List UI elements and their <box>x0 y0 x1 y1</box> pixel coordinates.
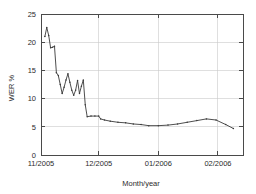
data-point <box>65 79 67 81</box>
x-tick-label: 01/2006 <box>145 159 172 168</box>
y-tick-label: 5 <box>32 123 36 132</box>
data-point <box>86 116 88 118</box>
data-point <box>44 36 46 38</box>
data-point <box>52 47 54 49</box>
data-point <box>158 125 160 127</box>
x-tick-label: 12/2005 <box>85 159 112 168</box>
x-axis-title: Month/year <box>122 179 160 188</box>
data-point <box>110 120 112 122</box>
data-point <box>85 104 87 106</box>
data-point <box>46 27 48 29</box>
data-point <box>94 115 96 117</box>
data-point <box>50 47 52 49</box>
data-point <box>79 93 81 95</box>
data-point <box>56 72 58 74</box>
y-axis-title: WER % <box>7 75 16 102</box>
wer-line-chart: 0510152025 11/200512/200501/200602/2006 … <box>0 0 256 194</box>
y-axis-tick-labels: 0510152025 <box>28 10 36 160</box>
data-point <box>133 123 135 125</box>
data-point <box>48 35 50 37</box>
data-point <box>225 124 227 126</box>
y-tick-label: 20 <box>28 38 36 47</box>
data-point <box>104 119 106 121</box>
data-point <box>69 81 71 83</box>
data-point <box>140 124 142 126</box>
data-point <box>186 122 188 124</box>
data-point <box>125 122 127 124</box>
data-point <box>206 118 208 120</box>
data-point <box>100 118 102 120</box>
data-point <box>77 80 79 82</box>
chart-container: 0510152025 11/200512/200501/200602/2006 … <box>0 0 256 194</box>
data-point <box>177 123 179 125</box>
data-point <box>233 128 235 130</box>
data-point <box>73 94 75 96</box>
data-point <box>54 45 56 47</box>
data-point <box>167 124 169 126</box>
data-point <box>61 93 63 95</box>
x-tick-label: 02/2006 <box>204 159 231 168</box>
data-point <box>148 125 150 127</box>
data-point <box>67 73 69 75</box>
data-point <box>71 89 73 91</box>
y-tick-label: 25 <box>28 10 36 19</box>
data-point <box>59 84 61 86</box>
data-point <box>63 87 65 89</box>
x-axis-tick-labels: 11/200512/200501/200602/2006 <box>28 159 232 168</box>
x-tick-label: 11/2005 <box>28 159 55 168</box>
data-point <box>81 85 83 87</box>
data-point <box>90 115 92 117</box>
y-tick-label: 10 <box>28 94 36 103</box>
data-point <box>196 120 198 122</box>
data-point <box>83 79 85 81</box>
data-point <box>117 122 119 124</box>
data-point <box>98 115 100 117</box>
data-point <box>58 75 60 77</box>
data-point <box>215 119 217 121</box>
plot-background <box>41 14 243 155</box>
y-tick-label: 15 <box>28 66 36 75</box>
data-point <box>75 89 77 91</box>
